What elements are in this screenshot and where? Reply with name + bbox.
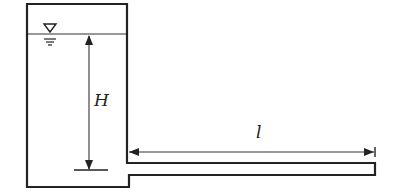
tank-wall xyxy=(27,4,375,187)
head-label: H xyxy=(93,90,110,110)
pipe-length-dimension xyxy=(129,147,375,157)
pipe-length-label: l xyxy=(256,122,261,142)
diagram-canvas: H l xyxy=(0,0,401,195)
